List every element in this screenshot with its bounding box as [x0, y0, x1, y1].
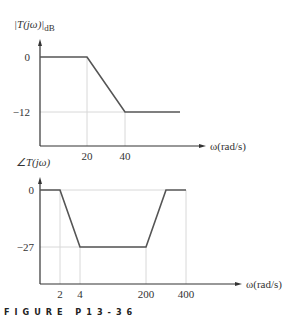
- figure-caption: FIGURE P13-36: [4, 307, 137, 317]
- phase-xlabel: ω(rad/s): [246, 278, 282, 291]
- magnitude-xlabel: ω(rad/s): [210, 140, 246, 153]
- y-axis-arrow-icon: [38, 39, 42, 46]
- ytick-0: 0: [29, 184, 35, 196]
- phase-curve: [40, 190, 186, 247]
- xtick-4: 4: [77, 288, 83, 300]
- ytick-minus27: −27: [17, 241, 35, 253]
- ytick-0: 0: [25, 51, 31, 63]
- bode-figure: |T(jω)|dB 0 −12 20 40 ω(rad/s) ∠T(jω) 0 …: [0, 0, 302, 320]
- magnitude-ylabel: |T(jω)|dB: [14, 18, 55, 33]
- xtick-2: 2: [57, 288, 63, 300]
- x-axis-arrow-icon: [199, 144, 206, 148]
- xtick-40: 40: [120, 150, 132, 162]
- ytick-minus12: −12: [13, 106, 30, 118]
- magnitude-curve: [40, 57, 180, 112]
- x-axis-arrow-icon: [235, 282, 242, 286]
- xtick-400: 400: [178, 288, 195, 300]
- y-axis-arrow-icon: [38, 177, 42, 184]
- phase-ylabel: ∠T(jω): [16, 156, 51, 169]
- phase-plot: ∠T(jω) 0 −27 2 4 200 400 ω(rad/s): [16, 156, 282, 300]
- xtick-200: 200: [138, 288, 155, 300]
- xtick-20: 20: [82, 150, 94, 162]
- magnitude-plot: |T(jω)|dB 0 −12 20 40 ω(rad/s): [13, 18, 247, 162]
